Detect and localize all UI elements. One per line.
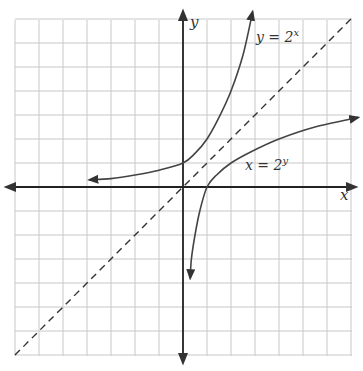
series-label-exponent: y <box>281 155 288 166</box>
series-label-exponent: x <box>293 27 299 38</box>
series-label-log-curve: x = 2y <box>245 155 288 173</box>
series-line-1 <box>190 117 358 278</box>
x-axis-label: x <box>340 186 349 204</box>
series-line-0 <box>89 12 252 180</box>
series-group <box>15 12 358 355</box>
series-label-exp-curve: y = 2x <box>255 27 299 45</box>
chart-canvas: x y y = 2x x = 2y <box>0 0 363 371</box>
series-label-base: y = 2 <box>255 29 294 45</box>
labels: x y y = 2x x = 2y <box>189 13 349 204</box>
series-label-base: x = 2 <box>245 157 283 173</box>
y-axis-label: y <box>189 13 199 31</box>
